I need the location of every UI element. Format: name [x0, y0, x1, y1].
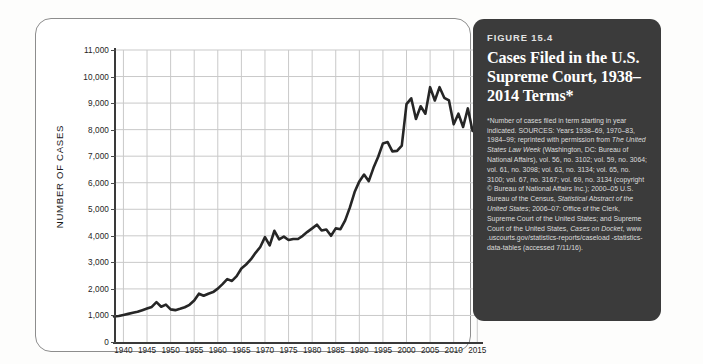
- y-tick-mark: [111, 156, 116, 157]
- x-tick-label: 1990: [350, 346, 368, 355]
- y-tick-mark: [111, 77, 116, 78]
- x-tick-label: 2000: [397, 346, 415, 355]
- y-tick-label: 7,000: [88, 152, 109, 161]
- y-tick-label: 9,000: [88, 99, 109, 108]
- x-axis-line: [113, 342, 483, 344]
- x-tick-label: 1975: [279, 346, 297, 355]
- x-tick-label: 2010: [445, 346, 463, 355]
- y-tick-mark: [111, 262, 116, 263]
- x-tick-label: 1955: [185, 346, 203, 355]
- y-axis-title: NUMBER OF CASES: [54, 92, 65, 262]
- x-tick-label: 1960: [209, 346, 227, 355]
- y-tick-label: 4,000: [88, 231, 109, 240]
- x-tick-label: 1945: [138, 346, 156, 355]
- x-tick-label: 1940: [114, 346, 132, 355]
- y-tick-mark: [111, 130, 116, 131]
- y-tick-label: 3,000: [88, 258, 109, 267]
- footnote-sources-part2: (Washington, DC: Bureau of National Affa…: [487, 146, 647, 202]
- y-axis-line: [114, 48, 116, 344]
- x-tick-label: 1995: [374, 346, 392, 355]
- y-tick-label: 11,000: [84, 46, 109, 55]
- footnote-sources-label: SOURCES:: [518, 127, 554, 134]
- x-tick-label: 1965: [232, 346, 250, 355]
- gridlines: [114, 50, 482, 342]
- chart-card: 01,0002,0003,0004,0005,0006,0007,0008,00…: [35, 18, 471, 352]
- y-tick-label: 6,000: [88, 178, 109, 187]
- x-tick-label: 1970: [256, 346, 274, 355]
- y-tick-label: 10,000: [83, 72, 109, 81]
- x-tick-label: 1950: [162, 346, 180, 355]
- y-tick-mark: [111, 236, 116, 237]
- y-tick-mark: [111, 342, 116, 343]
- y-tick-label: 8,000: [88, 125, 109, 134]
- x-tick-label: 1985: [327, 346, 345, 355]
- y-tick-mark: [111, 50, 116, 51]
- series-line-cases-filed: [114, 87, 473, 316]
- y-tick-label: 1,000: [88, 311, 109, 320]
- figure-number: FIGURE 15.4: [487, 32, 647, 43]
- figure-footnote: *Number of cases filed in term starting …: [487, 116, 647, 253]
- x-tick-label: 2015: [468, 346, 486, 355]
- footnote-sources-italic3: Cases on Docket: [570, 225, 622, 232]
- y-tick-label: 2,000: [88, 284, 109, 293]
- plot-area: [114, 50, 482, 342]
- y-axis-tick-labels: 01,0002,0003,0004,0005,0006,0007,0008,00…: [36, 19, 109, 364]
- figure-caption-panel: FIGURE 15.4 Cases Filed in the U.S. Supr…: [473, 19, 661, 321]
- y-tick-mark: [111, 103, 116, 104]
- x-tick-label: 1980: [303, 346, 321, 355]
- y-tick-mark: [111, 209, 116, 210]
- figure-title: Cases Filed in the U.S. Supreme Court, 1…: [487, 49, 647, 106]
- y-tick-label: 5,000: [88, 205, 109, 214]
- y-tick-label: 0: [104, 338, 109, 347]
- series-line-chart: [114, 50, 482, 342]
- x-tick-label: 2005: [421, 346, 439, 355]
- y-tick-mark: [111, 183, 116, 184]
- y-tick-mark: [111, 289, 116, 290]
- y-tick-mark: [111, 315, 116, 316]
